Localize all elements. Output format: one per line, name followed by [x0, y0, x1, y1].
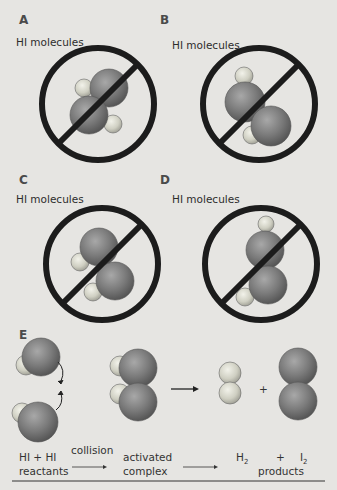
product-h2 — [219, 362, 241, 404]
panel-a-label: HI molecules — [16, 36, 84, 48]
prohibit-sign-b — [203, 48, 315, 160]
collision-label: collision — [71, 443, 113, 457]
panel-letter-d: D — [160, 173, 170, 187]
product-i2 — [279, 348, 317, 420]
reactants-label: reactants — [19, 464, 69, 478]
hydrogen-atom — [258, 216, 274, 232]
reactants-formula: HI + HI — [19, 450, 56, 464]
collision-arrow — [72, 465, 107, 469]
panel-letter-c: C — [19, 173, 28, 187]
iodine-atom — [80, 228, 118, 266]
reactant-hi-1 — [16, 338, 60, 376]
iodine-atom — [251, 106, 291, 146]
products-plus-sign: + — [259, 382, 268, 396]
prohibit-sign-a — [42, 48, 154, 160]
activated-label: activated — [123, 450, 172, 464]
prohibit-sign-c — [46, 208, 158, 320]
reaction-arrow — [171, 386, 199, 392]
complex-label: complex — [123, 464, 168, 478]
panel-d-label: HI molecules — [172, 193, 240, 205]
diagram-canvas — [0, 0, 337, 490]
panel-letter-b: B — [160, 13, 169, 27]
panel-letter-a: A — [19, 13, 28, 27]
products-label: products — [258, 464, 304, 478]
complex-to-products-arrow — [183, 465, 218, 469]
panel-c-label: HI molecules — [16, 193, 84, 205]
panel-letter-e: E — [19, 328, 27, 342]
activated-complex — [110, 349, 157, 421]
reactant-hi-2 — [12, 402, 58, 442]
product-plus-label: + — [276, 450, 285, 464]
panel-b-label: HI molecules — [172, 39, 240, 51]
collision-arrows — [56, 362, 63, 410]
product-h2-label: H2 — [236, 450, 248, 469]
